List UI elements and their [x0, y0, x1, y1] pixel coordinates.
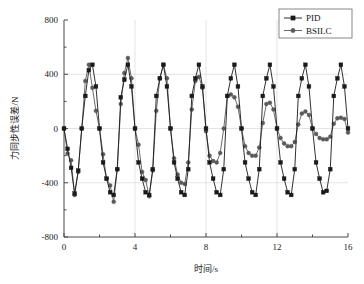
data-point-marker: [105, 177, 109, 181]
x-tick-label: 16: [344, 242, 354, 252]
y-tick-label: -800: [42, 232, 59, 242]
data-point-marker: [289, 144, 293, 148]
data-point-marker: [179, 190, 183, 194]
legend-label-pid[interactable]: PID: [306, 13, 321, 23]
data-point-marker: [293, 167, 297, 171]
data-point-marker: [335, 116, 339, 120]
data-point-marker: [66, 147, 70, 151]
data-point-marker: [162, 63, 166, 67]
data-point-marker: [264, 76, 268, 80]
x-tick-label: 0: [62, 242, 67, 252]
data-point-marker: [94, 109, 98, 113]
data-point-marker: [151, 167, 155, 171]
x-tick-label: 4: [133, 242, 138, 252]
data-point-marker: [279, 161, 283, 165]
data-point-marker: [254, 193, 258, 197]
data-point-marker: [73, 192, 77, 196]
data-point-marker: [62, 127, 66, 131]
data-point-marker: [154, 94, 158, 98]
data-point-marker: [307, 113, 311, 117]
chart-figure: 0481216 -800-4000400800 PIDBSILC 时间/s 力同…: [0, 0, 364, 284]
y-tick-label: 0: [54, 124, 59, 134]
data-point-marker: [342, 117, 346, 121]
data-point-marker: [130, 85, 134, 89]
data-point-marker: [122, 78, 126, 82]
x-tick-labels: 0481216: [62, 242, 353, 252]
data-point-marker: [346, 127, 350, 131]
x-axis-title: 时间/s: [194, 263, 219, 274]
data-point-marker: [112, 200, 116, 204]
data-point-marker: [69, 166, 73, 170]
data-point-marker: [126, 56, 130, 60]
data-point-marker: [133, 127, 137, 131]
data-point-marker: [94, 85, 98, 89]
y-tick-label: -400: [42, 178, 59, 188]
data-point-marker: [229, 76, 233, 80]
data-point-marker: [233, 63, 237, 67]
data-point-marker: [332, 94, 336, 98]
data-point-marker: [286, 190, 290, 194]
data-point-marker: [80, 127, 84, 131]
data-point-marker: [282, 141, 286, 145]
data-point-marker: [247, 177, 251, 181]
data-point-marker: [193, 76, 197, 80]
data-point-marker: [247, 151, 251, 155]
data-point-marker: [314, 132, 318, 136]
y-tick-label: 800: [45, 15, 59, 25]
data-point-marker: [300, 112, 304, 116]
data-point-marker: [190, 108, 194, 112]
data-point-marker: [183, 193, 187, 197]
data-point-marker: [225, 94, 229, 98]
data-point-marker: [257, 167, 261, 171]
data-point-marker: [254, 154, 258, 158]
data-point-marker: [296, 94, 300, 98]
y-axis-title: 力同步性误差/N: [9, 96, 20, 160]
data-point-marker: [222, 127, 226, 131]
data-point-marker: [268, 101, 272, 105]
data-point-marker: [335, 76, 339, 80]
data-point-marker: [165, 85, 169, 89]
data-point-marker: [215, 190, 219, 194]
x-tick-label: 8: [204, 242, 209, 252]
data-point-marker: [144, 178, 148, 182]
data-point-marker: [112, 193, 116, 197]
data-point-marker: [304, 63, 308, 67]
data-point-marker: [158, 76, 162, 80]
data-point-marker: [98, 127, 102, 131]
data-point-marker: [325, 189, 329, 193]
chart-canvas: 0481216 -800-4000400800 PIDBSILC 时间/s 力同…: [0, 0, 364, 284]
y-tick-label: 400: [45, 69, 59, 79]
data-point-marker: [346, 131, 350, 135]
data-point-marker: [208, 154, 212, 158]
data-point-marker: [90, 86, 94, 90]
data-point-marker: [279, 136, 283, 140]
data-point-marker: [325, 137, 329, 141]
data-point-marker: [87, 68, 91, 72]
data-point-marker: [243, 161, 247, 165]
legend-marker-bsilc: [291, 28, 295, 32]
data-point-marker: [314, 161, 318, 165]
legend-marker-pid: [291, 16, 295, 20]
data-point-marker: [201, 85, 205, 89]
data-point-marker: [204, 127, 208, 131]
data-point-marker: [268, 63, 272, 67]
data-point-marker: [115, 167, 119, 171]
data-point-marker: [169, 127, 173, 131]
data-point-marker: [318, 177, 322, 181]
legend-label-bsilc[interactable]: BSILC: [306, 26, 332, 36]
data-point-marker: [236, 85, 240, 89]
data-point-marker: [307, 85, 311, 89]
data-point-marker: [300, 76, 304, 80]
data-point-marker: [91, 63, 95, 67]
data-point-marker: [218, 193, 222, 197]
chart-legend[interactable]: PIDBSILC: [279, 9, 352, 38]
data-point-marker: [186, 167, 190, 171]
data-point-marker: [282, 177, 286, 181]
data-point-marker: [119, 95, 123, 99]
data-point-marker: [311, 127, 315, 131]
data-point-marker: [343, 85, 347, 89]
data-point-marker: [272, 85, 276, 89]
data-point-marker: [101, 161, 105, 165]
data-point-marker: [176, 177, 180, 181]
data-point-marker: [215, 160, 219, 164]
